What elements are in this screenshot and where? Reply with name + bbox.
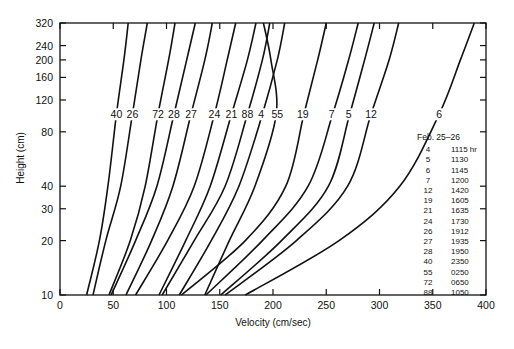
curve-label-6: 6	[436, 108, 442, 120]
y-axis-title: Height (cm)	[15, 132, 26, 184]
legend-rows: 41115 hr51130611457120012142019160521163…	[417, 145, 511, 298]
legend-time: 1935	[439, 237, 511, 247]
legend-run-number: 72	[417, 278, 439, 288]
curve-label-12: 12	[365, 108, 377, 120]
x-tick-label: 50	[107, 299, 119, 311]
y-tick-label: 320	[35, 17, 53, 29]
curve-label-28: 28	[168, 108, 180, 120]
legend-run-number: 19	[417, 196, 439, 206]
legend-row: 241730	[417, 217, 511, 227]
x-tick-label: 300	[371, 299, 389, 311]
curve-label-19: 19	[297, 108, 309, 120]
legend: Feb. 25–26 41115 hr511306114571200121420…	[417, 132, 511, 298]
legend-run-number: 6	[417, 166, 439, 176]
curve-label-27: 27	[185, 108, 197, 120]
curve-label-21: 21	[226, 108, 238, 120]
x-tick-label: 350	[424, 299, 442, 311]
legend-time: 2350	[439, 257, 511, 267]
legend-row: 211635	[417, 206, 511, 216]
y-tick-label: 200	[35, 54, 53, 66]
legend-run-number: 28	[417, 247, 439, 257]
curve-label-40: 40	[111, 108, 123, 120]
curve-run-5	[221, 23, 374, 295]
y-tick-label: 120	[35, 94, 53, 106]
legend-run-number: 12	[417, 186, 439, 196]
legend-row: 61145	[417, 166, 511, 176]
curve-label-55: 55	[271, 108, 283, 120]
legend-time: 1635	[439, 206, 511, 216]
curve-run-72	[109, 23, 175, 295]
legend-time: 1115 hr	[439, 145, 511, 155]
curve-labels: 40267228272421884551975126	[108, 108, 443, 120]
legend-run-number: 26	[417, 227, 439, 237]
curve-run-27	[126, 23, 212, 295]
x-tick-label: 400	[477, 299, 495, 311]
legend-run-number: 7	[417, 176, 439, 186]
x-tick-label: 100	[158, 299, 176, 311]
curve-run-40	[87, 23, 129, 295]
legend-row: 550250	[417, 268, 511, 278]
curve-label-88: 88	[242, 108, 254, 120]
curve-run-26	[93, 23, 147, 295]
legend-run-number: 4	[417, 145, 439, 155]
x-axis-title: Velocity (cm/sec)	[235, 317, 311, 328]
legend-row: 720650	[417, 278, 511, 288]
y-tick-label: 40	[41, 180, 53, 192]
curve-run-21	[159, 23, 256, 295]
legend-title: Feb. 25–26	[417, 132, 511, 142]
legend-run-number: 27	[417, 237, 439, 247]
legend-time: 1730	[439, 217, 511, 227]
legend-run-number: 21	[417, 206, 439, 216]
y-tick-label: 80	[41, 126, 53, 138]
curve-run-7	[206, 23, 358, 295]
legend-row: 121420	[417, 186, 511, 196]
legend-time: 1950	[439, 247, 511, 257]
legend-run-number: 24	[417, 217, 439, 227]
legend-time: 1130	[439, 155, 511, 165]
x-tick-label: 0	[57, 299, 63, 311]
legend-row: 51130	[417, 155, 511, 165]
y-tick-label: 160	[35, 71, 53, 83]
legend-row: 71200	[417, 176, 511, 186]
curve-run-12	[225, 23, 399, 295]
x-tick-label: 150	[211, 299, 229, 311]
legend-row: 191605	[417, 196, 511, 206]
x-tick-label: 250	[317, 299, 335, 311]
y-tick-label: 20	[41, 235, 53, 247]
curve-label-4: 4	[258, 108, 264, 120]
legend-time: 1050	[439, 288, 511, 298]
legend-row: 281950	[417, 247, 511, 257]
legend-run-number: 55	[417, 268, 439, 278]
curve-label-24: 24	[209, 108, 221, 120]
curve-label-7: 7	[329, 108, 335, 120]
legend-time: 0650	[439, 278, 511, 288]
legend-run-number: 88	[417, 288, 439, 298]
legend-row: 41115 hr	[417, 145, 511, 155]
curve-label-72: 72	[152, 108, 164, 120]
legend-row: 881050	[417, 288, 511, 298]
y-tick-label: 10	[41, 289, 53, 301]
legend-time: 0250	[439, 268, 511, 278]
legend-run-number: 5	[417, 155, 439, 165]
legend-row: 402350	[417, 257, 511, 267]
y-tick-label: 240	[35, 40, 53, 52]
curve-label-26: 26	[127, 108, 139, 120]
curve-label-5: 5	[346, 108, 352, 120]
y-tick-label: 30	[41, 203, 53, 215]
legend-time: 1605	[439, 196, 511, 206]
legend-time: 1912	[439, 227, 511, 237]
legend-run-number: 40	[417, 257, 439, 267]
legend-time: 1420	[439, 186, 511, 196]
legend-time: 1200	[439, 176, 511, 186]
x-tick-label: 200	[264, 299, 282, 311]
legend-row: 261912	[417, 227, 511, 237]
legend-time: 1145	[439, 166, 511, 176]
legend-row: 271935	[417, 237, 511, 247]
